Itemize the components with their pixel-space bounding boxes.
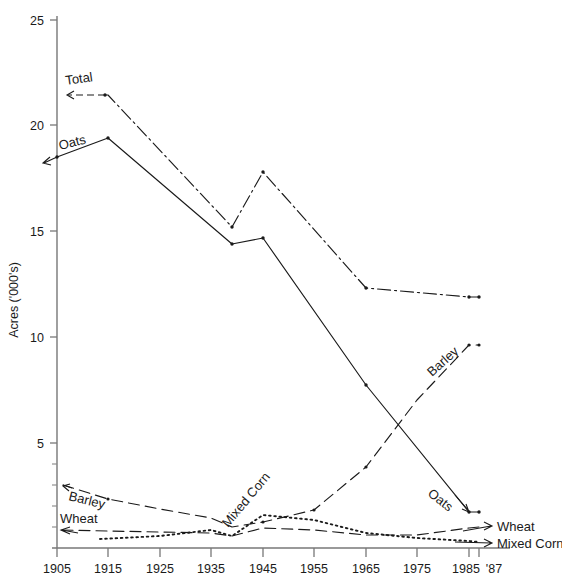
x-tick-label-1945: 1945 — [249, 562, 277, 576]
data-point — [261, 170, 264, 173]
data-point — [261, 520, 264, 523]
series-label-barley-right: Barley — [424, 343, 462, 379]
series-barley: Barley Barley — [63, 343, 481, 527]
series-label-oats-left: Oats — [57, 132, 88, 153]
series-oats: Oats Oats — [43, 132, 481, 515]
data-point — [467, 295, 470, 298]
data-point — [477, 295, 480, 298]
x-tick-label-1935: 1935 — [197, 562, 225, 576]
y-tick-label-10: 10 — [30, 331, 44, 345]
x-tick-label-1987: '87 — [486, 562, 502, 576]
series-label-mixed-corn-right: Mixed Corn — [497, 536, 562, 551]
y-tick-label-20: 20 — [30, 119, 44, 133]
y-axis-title: Acres ('000's) — [7, 262, 21, 338]
chart-figure: 25 20 15 10 5 Acres ('000's) 1905 1915 1… — [0, 0, 562, 587]
y-tick-label-25: 25 — [30, 14, 44, 28]
data-point — [106, 497, 109, 500]
series-barley-line — [63, 345, 479, 527]
x-axis-ticks: 1905 1915 1925 1935 1945 1955 1965 1975 … — [43, 548, 502, 576]
y-tick-label-5: 5 — [37, 437, 44, 451]
y-axis-ticks: 25 20 15 10 5 — [30, 14, 57, 527]
data-point — [477, 343, 480, 346]
series-label-barley-left: Barley — [67, 488, 107, 512]
data-point — [364, 383, 367, 386]
series-label-mixed-corn-inline-mixed: Mixed Corn — [219, 469, 273, 530]
x-tick-label-1985: 1985 — [452, 562, 480, 576]
y-tick-label-15: 15 — [30, 225, 44, 239]
x-tick-label-1955: 1955 — [300, 562, 328, 576]
x-tick-label-1965: 1965 — [352, 562, 380, 576]
series-total: Total — [64, 69, 480, 298]
data-point — [467, 343, 470, 346]
data-point — [477, 510, 480, 513]
series-wheat: Wheat Wheat — [60, 511, 535, 536]
x-tick-label-1925: 1925 — [146, 562, 174, 576]
data-point — [364, 465, 367, 468]
oats-label-arrow-left — [43, 157, 57, 165]
line-chart-canvas: 25 20 15 10 5 Acres ('000's) 1905 1915 1… — [0, 0, 562, 587]
x-tick-label-1915: 1915 — [94, 562, 122, 576]
series-oats-line — [57, 138, 479, 512]
oats-label-arrow-right — [455, 495, 469, 512]
series-label-total: Total — [64, 69, 93, 88]
series-total-line — [105, 95, 479, 297]
data-point — [261, 236, 264, 239]
series-label-wheat-left: Wheat — [60, 511, 98, 526]
series-label-wheat-right: Wheat — [497, 519, 535, 534]
data-point — [364, 286, 367, 289]
data-point — [312, 508, 315, 511]
series-wheat-line — [62, 527, 479, 536]
axes — [52, 16, 510, 548]
data-point — [230, 225, 233, 228]
wheat-label-arrow-right — [463, 522, 492, 531]
data-point — [106, 136, 109, 139]
x-tick-label-1905: 1905 — [43, 562, 71, 576]
data-point — [230, 242, 233, 245]
x-tick-label-1975: 1975 — [403, 562, 431, 576]
